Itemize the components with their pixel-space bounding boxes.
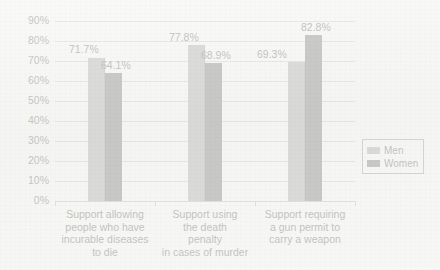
y-tick-label: 40% [5,115,49,126]
plot-area: 71.7% 64.1% 77.8% 68.9% 69.3% 82.8% [55,21,355,201]
category-label-line: Support allowing [55,208,155,221]
category-label-line: incurable diseases [55,233,155,246]
data-label-women: 68.9% [201,50,231,61]
data-label-men: 71.7% [69,44,99,55]
men-swatch-icon [367,147,380,154]
y-axis: 90% 80% 70% 60% 50% 40% 30% 20% 10% 0% [0,0,49,270]
y-tick-label: 20% [5,155,49,166]
data-label-women: 82.8% [301,22,331,33]
category-tick [255,201,256,206]
bar-men[interactable] [188,45,205,201]
legend: Men Women [362,139,424,174]
bar-men[interactable] [88,58,105,201]
bar-men[interactable] [288,62,305,201]
y-tick-label: 80% [5,35,49,46]
category-label-line: a gun permit to [255,221,355,234]
legend-item-men[interactable]: Men [367,144,420,156]
y-tick-label: 10% [5,175,49,186]
y-tick-label: 70% [5,55,49,66]
category-label-1: Support allowing people who have incurab… [55,208,155,258]
category-tick [55,201,56,206]
category-label-line: carry a weapon [255,233,355,246]
category-label-line: the death [155,221,255,234]
bar-women[interactable] [205,63,222,201]
legend-label: Women [384,158,418,169]
category-tick [355,201,356,206]
bar-group [188,21,222,201]
data-label-women: 64.1% [101,60,131,71]
category-label-line: penalty [155,233,255,246]
legend-label: Men [384,145,403,156]
category-label-3: Support requiring a gun permit to carry … [255,208,355,246]
y-tick-label: 0% [5,195,49,206]
bar-group [288,21,322,201]
category-label-line: Support using [155,208,255,221]
y-tick-label: 30% [5,135,49,146]
data-label-men: 77.8% [169,32,199,43]
bar-women[interactable] [105,73,122,201]
category-label-line: in cases of murder [155,246,255,259]
data-label-men: 69.3% [257,49,287,60]
women-swatch-icon [367,160,380,167]
category-label-line: Support requiring [255,208,355,221]
category-label-line: to die [55,246,155,259]
y-tick-label: 90% [5,15,49,26]
y-tick-label: 50% [5,95,49,106]
bar-women[interactable] [305,35,322,201]
y-tick-label: 60% [5,75,49,86]
category-label-2: Support using the death penalty in cases… [155,208,255,258]
legend-item-women[interactable]: Women [367,157,420,169]
category-tick [155,201,156,206]
x-axis-line [55,201,355,202]
bar-chart: 90% 80% 70% 60% 50% 40% 30% 20% 10% 0% [0,0,440,270]
category-label-line: people who have [55,221,155,234]
